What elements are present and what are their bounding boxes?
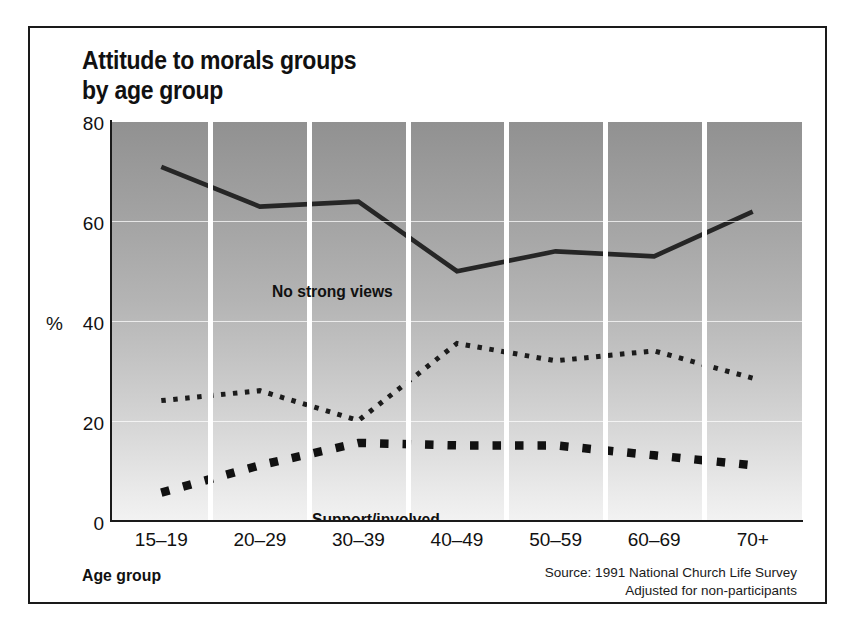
gridline-category-6 bbox=[702, 122, 707, 520]
x-tick-4: 50–59 bbox=[506, 530, 605, 556]
y-axis-tick-labels: 80 60 40 20 0 % bbox=[38, 28, 104, 620]
line-groups-misguided bbox=[161, 443, 752, 493]
x-axis-tick-labels: 15–19 20–29 30–39 40–49 50–59 60–69 70+ bbox=[112, 530, 802, 556]
gridline-40 bbox=[112, 321, 802, 322]
line-no-strong-views bbox=[161, 167, 752, 271]
x-tick-5: 60–69 bbox=[605, 530, 704, 556]
x-tick-2: 30–39 bbox=[309, 530, 408, 556]
y-tick-80: 80 bbox=[44, 114, 104, 133]
x-tick-6: 70+ bbox=[703, 530, 802, 556]
series-label-no-strong-views: No strong views bbox=[272, 282, 393, 302]
x-axis-line bbox=[110, 520, 803, 522]
y-tick-60: 60 bbox=[44, 214, 104, 233]
plot-area: No strong views Support/involved Groups … bbox=[112, 122, 802, 520]
x-tick-3: 40–49 bbox=[408, 530, 507, 556]
gridline-category-1 bbox=[208, 122, 213, 520]
gridline-category-4 bbox=[504, 122, 509, 520]
chart-title: Attitude to morals groups by age group bbox=[82, 46, 560, 105]
gridline-60 bbox=[112, 221, 802, 222]
x-axis-title: Age group bbox=[82, 566, 161, 586]
y-tick-0: 0 bbox=[44, 514, 104, 533]
y-tick-20: 20 bbox=[44, 414, 104, 433]
x-tick-1: 20–29 bbox=[211, 530, 310, 556]
gridline-category-3 bbox=[406, 122, 411, 520]
gridline-category-2 bbox=[307, 122, 312, 520]
source-note: Source: 1991 National Church Life Survey… bbox=[545, 564, 797, 600]
gridline-20 bbox=[112, 421, 802, 422]
series-label-support-involved: Support/involved bbox=[312, 510, 440, 520]
line-support-involved bbox=[161, 343, 752, 420]
y-axis-unit-label: % bbox=[46, 314, 63, 333]
chart-figure: Attitude to morals groups by age group 8… bbox=[28, 26, 827, 604]
gridline-category-5 bbox=[603, 122, 608, 520]
x-tick-0: 15–19 bbox=[112, 530, 211, 556]
y-axis-line bbox=[110, 120, 112, 522]
